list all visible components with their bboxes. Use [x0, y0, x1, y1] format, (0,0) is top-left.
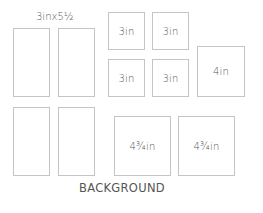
frame-large-1: 4¾in: [114, 116, 171, 176]
frame-small-4: 3in: [152, 59, 189, 97]
group-label-3inx5-half: 3inx5½: [36, 11, 73, 22]
frame-small-2: 3in: [152, 12, 189, 50]
frame-label: 4in: [213, 66, 229, 77]
frame-tall-4: [58, 107, 95, 176]
frame-label: 3in: [162, 73, 178, 84]
frame-tall-3: [13, 107, 50, 176]
frame-tall-1: [13, 28, 50, 97]
frame-label: 3in: [118, 73, 134, 84]
frame-label: 3in: [118, 26, 134, 37]
frame-small-3: 3in: [108, 59, 145, 97]
frame-medium-1: 4in: [197, 46, 245, 97]
frame-label: 3in: [162, 26, 178, 37]
frame-label: 4¾in: [194, 141, 220, 152]
frame-small-1: 3in: [108, 12, 145, 50]
frame-tall-2: [58, 28, 95, 97]
frame-label: 4¾in: [130, 141, 156, 152]
frame-large-2: 4¾in: [178, 116, 235, 176]
background-caption: BACKGROUND: [79, 181, 165, 195]
